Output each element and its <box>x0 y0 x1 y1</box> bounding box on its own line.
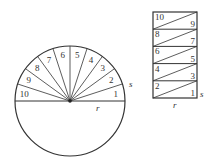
row-right-label: 1 <box>191 88 196 98</box>
row-right-label: 9 <box>191 19 196 29</box>
sector-spoke <box>70 57 102 101</box>
sector-label: 2 <box>109 75 114 85</box>
sector-label: 8 <box>35 63 40 73</box>
sector-label: 1 <box>113 89 118 99</box>
row-left-label: 8 <box>155 29 160 39</box>
row-left-label: 2 <box>155 81 160 91</box>
rectangle-rows: 10987654321 <box>153 12 197 98</box>
row-right-label: 3 <box>191 71 196 81</box>
row-left-label: 4 <box>155 64 160 74</box>
sector-spoke <box>38 57 70 101</box>
circle-figure: 12345678910 s r <box>15 46 133 156</box>
row-left-label: 6 <box>155 46 160 56</box>
sector-label: 4 <box>89 55 94 65</box>
sector-label: 9 <box>27 75 32 85</box>
center-point <box>68 99 72 103</box>
row-right-label: 7 <box>191 36 196 46</box>
sector-spokes <box>18 46 123 101</box>
circle-side-label: s <box>129 79 133 89</box>
diagram-canvas: 12345678910 s r 10987654321 s r <box>0 0 224 168</box>
rect-bottom-label: r <box>173 100 177 110</box>
sector-label: 6 <box>61 50 66 60</box>
sector-label: 3 <box>100 63 105 73</box>
sector-label: 5 <box>75 50 80 60</box>
sector-spoke <box>70 69 114 101</box>
sector-spoke <box>26 69 70 101</box>
row-left-label: 10 <box>155 12 165 22</box>
sector-label: 7 <box>47 55 52 65</box>
rect-side-label: s <box>200 89 204 99</box>
sector-label: 10 <box>20 89 30 99</box>
row-right-label: 5 <box>191 54 196 64</box>
circle-radius-label: r <box>96 103 100 113</box>
rectangle-figure: 10987654321 s r <box>153 12 204 110</box>
